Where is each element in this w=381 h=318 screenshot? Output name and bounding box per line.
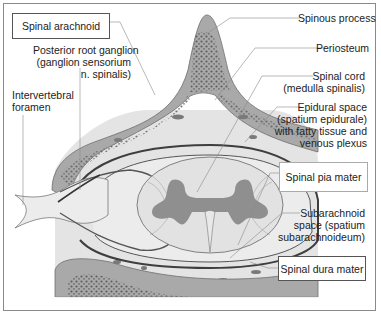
label-subarachnoid-space: Subarachnoid space (spatium subarachnoid… xyxy=(262,207,365,243)
leader-spinous-process xyxy=(205,18,300,35)
label-line: Posterior root ganglion xyxy=(33,44,131,56)
label-epidural-space: Epidural space (spatium epidurale) with … xyxy=(262,101,367,149)
label-spinal-cord: Spinal cord (medulla spinalis) xyxy=(262,70,365,94)
label-text: Periosteum xyxy=(316,42,369,54)
label-line: Intervertebral xyxy=(12,89,74,101)
label-line: Epidural space xyxy=(262,101,367,113)
label-intervertebral-foramen: Intervertebral foramen xyxy=(12,89,74,113)
label-spinal-pia-mater: Spinal pia mater xyxy=(279,162,368,192)
label-text: Spinal arachnoid xyxy=(22,20,100,32)
label-line: foramen xyxy=(12,101,74,113)
label-line: Subarachnoid xyxy=(262,207,365,219)
label-spinal-arachnoid: Spinal arachnoid xyxy=(12,13,110,39)
label-line: Spinal cord xyxy=(262,70,365,82)
label-line: (spatium epidurale) xyxy=(262,113,367,125)
label-spinal-dura-mater: Spinal dura mater xyxy=(278,256,366,281)
label-posterior-root-ganglion: Posterior root ganglion (ganglion sensor… xyxy=(33,44,131,80)
label-line: subarachnoideum) xyxy=(262,231,365,243)
label-line: (ganglion sensorium xyxy=(33,56,131,68)
label-line: n. spinalis) xyxy=(33,68,131,80)
label-spinous-process: Spinous process xyxy=(298,12,376,24)
label-text: Spinal dura mater xyxy=(281,263,364,275)
label-line: (medulla spinalis) xyxy=(262,82,365,94)
label-periosteum: Periosteum xyxy=(316,42,369,54)
label-line: with fatty tissue and xyxy=(262,125,367,137)
label-text: Spinal pia mater xyxy=(286,171,362,183)
label-text: Spinous process xyxy=(298,12,376,24)
label-line: space (spatium xyxy=(262,219,365,231)
label-line: venous plexus xyxy=(262,137,367,149)
